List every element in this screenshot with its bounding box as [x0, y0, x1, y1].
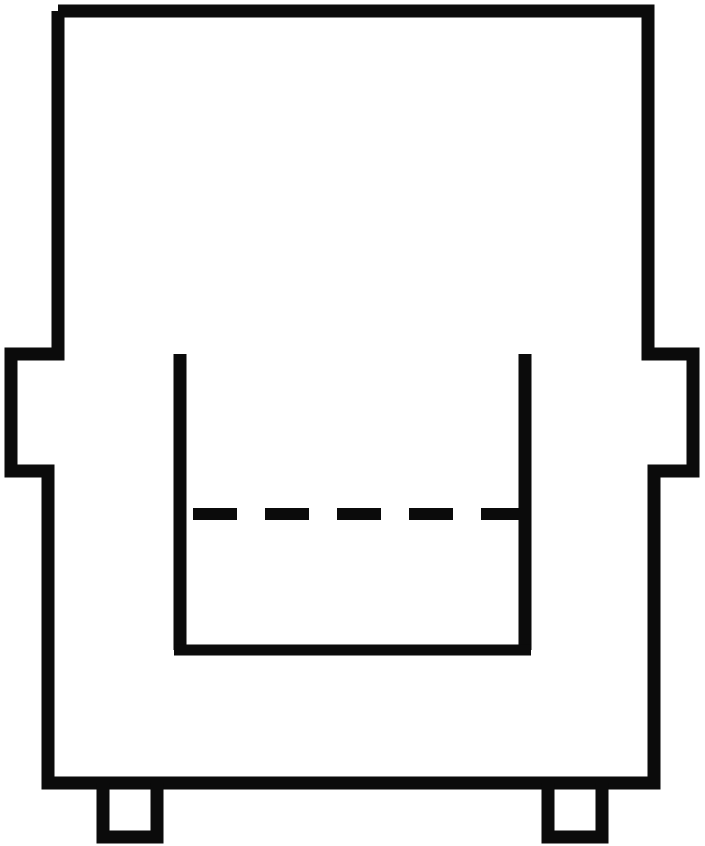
drawing-canvas: Armchair Front Elevation Line Drawing — [0, 0, 705, 846]
paper-background — [0, 0, 705, 846]
armchair-front-elevation-drawing: Armchair Front Elevation Line Drawing — [0, 0, 705, 846]
